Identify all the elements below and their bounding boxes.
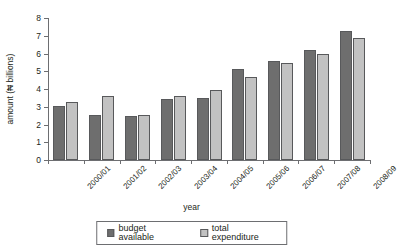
legend-item-total-expenditure: total expenditure <box>200 224 276 242</box>
x-tick-mark <box>191 160 192 164</box>
x-axis-title: year <box>0 202 383 212</box>
x-tick-mark <box>298 160 299 164</box>
bar-expenditure <box>317 54 329 160</box>
x-tick-mark <box>84 160 85 164</box>
legend-item-budget-available: budget available <box>107 224 182 242</box>
y-axis-line <box>48 18 49 160</box>
bar-group <box>161 18 186 160</box>
chart-legend: budget available total expenditure <box>96 221 288 245</box>
x-axis-line <box>48 160 370 161</box>
y-tick-mark <box>44 54 48 55</box>
bar-expenditure <box>174 96 186 160</box>
x-tick-label: 2005/06 <box>264 164 291 191</box>
bar-budget <box>340 31 352 160</box>
bar-expenditure <box>66 102 78 160</box>
bar-expenditure <box>138 115 150 160</box>
bar-group <box>89 18 114 160</box>
bar-group <box>340 18 365 160</box>
y-tick-label: 5 <box>36 67 41 76</box>
y-tick-mark <box>44 71 48 72</box>
y-tick-mark <box>44 107 48 108</box>
x-tick-label: 2002/03 <box>157 164 184 191</box>
x-tick-label: 2004/05 <box>228 164 255 191</box>
bar-expenditure <box>210 90 222 160</box>
bar-budget <box>53 106 65 160</box>
bar-expenditure <box>102 96 114 160</box>
y-tick-mark <box>44 89 48 90</box>
plot-area: 012345678 <box>48 18 370 160</box>
x-tick-label: 2000/01 <box>85 164 112 191</box>
y-tick-label: 6 <box>36 50 41 59</box>
y-tick-mark <box>44 125 48 126</box>
y-tick-mark <box>44 18 48 19</box>
bar-group <box>268 18 293 160</box>
x-tick-label: 2006/07 <box>300 164 327 191</box>
legend-swatch-icon-expenditure <box>200 229 208 237</box>
x-tick-label: 2003/04 <box>193 164 220 191</box>
bar-budget <box>89 115 101 160</box>
x-tick-mark <box>334 160 335 164</box>
bar-budget <box>125 116 137 160</box>
y-tick-label: 1 <box>36 138 41 147</box>
y-tick-label: 3 <box>36 103 41 112</box>
bar-group <box>304 18 329 160</box>
bar-group <box>197 18 222 160</box>
x-tick-mark <box>48 160 49 164</box>
y-tick-label: 2 <box>36 121 41 130</box>
bar-budget <box>161 99 173 160</box>
x-tick-mark <box>120 160 121 164</box>
x-tick-label: 2007/08 <box>336 164 363 191</box>
legend-swatch-icon-budget <box>107 229 115 237</box>
bar-budget <box>232 69 244 160</box>
y-axis-title: amount (₦ billions) <box>4 18 16 160</box>
y-tick-label: 4 <box>36 85 41 94</box>
bar-budget <box>304 50 316 160</box>
bar-budget <box>197 98 209 160</box>
x-tick-mark <box>263 160 264 164</box>
bar-group <box>125 18 150 160</box>
x-tick-label: 2001/02 <box>121 164 148 191</box>
x-tick-label: 2008/09 <box>372 164 398 191</box>
x-tick-mark <box>155 160 156 164</box>
bar-expenditure <box>353 38 365 160</box>
x-tick-mark <box>370 160 371 164</box>
legend-label-budget: budget available <box>119 224 182 242</box>
bar-group <box>232 18 257 160</box>
bar-group <box>53 18 78 160</box>
x-tick-mark <box>227 160 228 164</box>
bar-expenditure <box>281 63 293 160</box>
legend-label-expenditure: total expenditure <box>212 224 276 242</box>
bar-expenditure <box>245 77 257 160</box>
y-tick-mark <box>44 36 48 37</box>
y-tick-label: 0 <box>36 156 41 165</box>
y-tick-label: 8 <box>36 14 41 23</box>
y-tick-mark <box>44 142 48 143</box>
bar-budget <box>268 61 280 160</box>
y-tick-label: 7 <box>36 32 41 41</box>
